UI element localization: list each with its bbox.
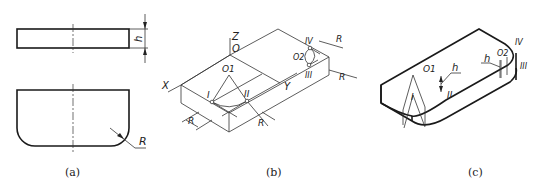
o1-label-c: O1 (423, 64, 436, 74)
figure: h R (a) Z O X Y (0, 0, 538, 189)
r-label-b1: R (188, 116, 194, 126)
panel-b: Z O X Y R R R R (161, 29, 357, 179)
y-label: Y (284, 81, 291, 92)
tangent-i-c: I (411, 92, 414, 102)
r-label-b4: R (339, 72, 345, 82)
tangent-iv-c: IV (515, 38, 523, 47)
tangent-iii-c: III (520, 62, 528, 71)
caption-a: (a) (65, 166, 80, 179)
caption-c: (c) (468, 166, 483, 179)
caption-b: (b) (266, 166, 282, 179)
tangent-iii-b: III (305, 71, 313, 80)
r-label-b2: R (258, 118, 264, 128)
h-label-c1: h (452, 62, 458, 73)
o-label: O (232, 43, 240, 54)
tangent-ii-c: II (447, 90, 453, 100)
o2-label-b: O2 (293, 53, 304, 62)
h-label-c2: h (484, 53, 490, 64)
o1-label-b: O1 (222, 64, 235, 74)
x-label: X (161, 80, 170, 91)
tangent-i-b: I (207, 90, 210, 100)
panel-a: h R (a) (17, 14, 148, 179)
r-label-b3: R (336, 34, 342, 44)
z-label: Z (231, 31, 240, 42)
panel-c: h h O1 O2 I II IV III (c) (381, 29, 528, 179)
r-label: R (139, 135, 147, 148)
h-label: h (133, 36, 144, 42)
o2-label-c: O2 (497, 49, 508, 58)
tangent-ii-b: II (244, 89, 250, 99)
tangent-iv-b: IV (305, 37, 313, 46)
